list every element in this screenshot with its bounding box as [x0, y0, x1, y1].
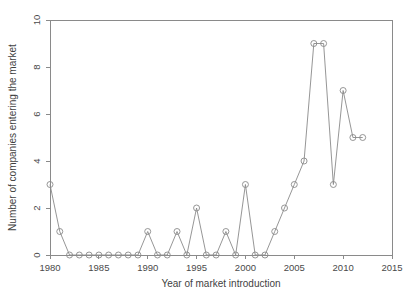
y-tick-label: 8 — [31, 64, 42, 69]
y-tick-label: 10 — [31, 15, 42, 26]
x-tick-label: 2005 — [284, 262, 305, 273]
x-tick-label: 2000 — [235, 262, 256, 273]
y-tick-label: 6 — [31, 111, 42, 116]
x-tick-label: 1985 — [88, 262, 109, 273]
y-axis-title: Number of companies entering the market — [7, 44, 18, 231]
y-tick-label: 4 — [31, 158, 42, 163]
series-line — [50, 44, 363, 256]
y-tick-label: 0 — [31, 252, 42, 257]
x-tick-label: 2015 — [381, 262, 402, 273]
y-tick-label: 2 — [31, 205, 42, 210]
plot-frame — [50, 20, 392, 255]
x-tick-label: 1980 — [39, 262, 60, 273]
line-chart: 198019851990199520002005201020150246810Y… — [0, 0, 412, 302]
x-tick-label: 2010 — [333, 262, 354, 273]
x-tick-label: 1995 — [186, 262, 207, 273]
x-tick-label: 1990 — [137, 262, 158, 273]
x-axis-title: Year of market introduction — [161, 278, 280, 289]
chart-figure: 198019851990199520002005201020150246810Y… — [0, 0, 412, 302]
